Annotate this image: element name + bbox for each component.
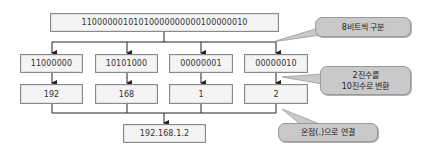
octet-decimal-1: 192 [20,84,83,104]
callout-split: 8비트씩 구분 [315,17,411,37]
octet-binary-1: 11000000 [20,54,83,73]
octet-decimal-text: 1 [198,90,203,99]
binary-full-box: 11000000101010000000000100000010 [50,13,279,32]
callout-join: 온점(.)으로 연결 [278,123,378,142]
octet-binary-text: 00000010 [255,59,297,68]
callout-convert-line2: 10진수로 변환 [342,81,390,92]
octet-binary-text: 10101000 [106,59,148,68]
octet-binary-text: 11000000 [31,59,73,68]
octet-binary-text: 00000001 [180,59,222,68]
callout-convert-pointer [282,74,322,84]
callout-convert-line1: 2진수를 [352,70,378,81]
result-box: 192.168.1.2 [123,124,206,143]
callout-join-text: 온점(.)으로 연결 [301,127,354,138]
octet-binary-4: 00000010 [244,54,308,73]
binary-full-text: 11000000101010000000000100000010 [81,18,247,27]
octet-decimal-text: 168 [119,90,135,99]
octet-binary-2: 10101000 [95,54,158,73]
octet-decimal-text: 192 [44,90,60,99]
callout-split-text: 8비트씩 구분 [342,22,385,33]
octet-decimal-4: 2 [244,84,308,104]
octet-binary-3: 00000001 [169,54,233,73]
octet-decimal-2: 168 [95,84,158,104]
callout-join-pointer [282,109,320,124]
octet-decimal-3: 1 [169,84,233,104]
octet-decimal-text: 2 [273,90,278,99]
callout-convert: 2진수를 10진수로 변환 [320,66,411,95]
result-text: 192.168.1.2 [140,129,189,138]
